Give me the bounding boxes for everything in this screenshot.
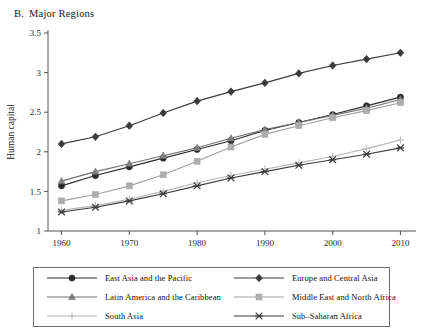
- marker-square: [59, 198, 65, 204]
- series-markers-3: [58, 96, 404, 184]
- x-tick-label: 2000: [324, 238, 343, 248]
- series-markers-2: [58, 49, 404, 148]
- y-tick-label: 3: [37, 68, 42, 78]
- chart-legend: East Asia and the PacificEurope and Cent…: [33, 267, 390, 327]
- legend-label: East Asia and the Pacific: [105, 273, 192, 283]
- legend-marker-circle-icon: [46, 272, 98, 284]
- legend-item[interactable]: Latin America and the Caribbean: [34, 287, 221, 306]
- series-4: [62, 103, 401, 201]
- marker-diamond: [126, 122, 133, 130]
- marker-diamond: [295, 70, 302, 78]
- legend-item[interactable]: Sub–Saharan Africa: [221, 307, 396, 326]
- panel-title: B.Major Regions: [14, 8, 94, 19]
- x-tick-label: 1980: [188, 238, 207, 248]
- legend-marker-plus-icon: [46, 310, 98, 322]
- x-tick-label: 1990: [256, 238, 275, 248]
- marker-square: [397, 100, 403, 106]
- x-tick-label: 1960: [53, 238, 72, 248]
- legend-marker-cross-icon: [233, 310, 285, 322]
- legend-item[interactable]: East Asia and the Pacific: [34, 268, 221, 287]
- y-axis-title: Human capital: [6, 104, 16, 160]
- y-tick-label: 3.5: [30, 28, 42, 38]
- legend-marker-diamond-icon: [233, 272, 285, 284]
- marker-square: [296, 123, 302, 129]
- legend-label: South Asia: [105, 311, 143, 321]
- y-tick-label: 2: [37, 147, 42, 157]
- marker-diamond: [363, 55, 370, 63]
- x-tick-label: 2010: [391, 238, 410, 248]
- marker-diamond: [329, 62, 336, 70]
- legend-label: Sub–Saharan Africa: [292, 311, 362, 321]
- chart-figure: B.Major Regions 11.522.533.5196019701980…: [0, 0, 423, 336]
- marker-diamond: [228, 88, 235, 96]
- marker-square: [126, 183, 132, 189]
- marker-diamond: [256, 274, 263, 282]
- y-tick-label: 1.5: [30, 187, 42, 197]
- line-chart-svg: 11.522.533.5196019701980199020002010Year…: [0, 22, 423, 254]
- marker-square: [194, 158, 200, 164]
- series-line: [62, 103, 401, 201]
- x-tick-label: 1970: [120, 238, 139, 248]
- legend-item[interactable]: South Asia: [34, 307, 221, 326]
- legend-marker-square-icon: [233, 291, 285, 303]
- legend-label: Europe and Central Asia: [292, 273, 378, 283]
- marker-square: [228, 144, 234, 150]
- legend-item[interactable]: Middle East and North Africa: [221, 287, 396, 306]
- marker-diamond: [261, 79, 268, 87]
- marker-diamond: [397, 49, 404, 57]
- panel-title-text: Major Regions: [29, 8, 94, 19]
- marker-diamond: [194, 97, 201, 105]
- marker-square: [92, 192, 98, 198]
- series-line: [62, 53, 401, 144]
- y-tick-label: 2.5: [30, 107, 42, 117]
- marker-square: [262, 131, 268, 137]
- legend-label: Latin America and the Caribbean: [105, 292, 221, 302]
- marker-diamond: [160, 109, 167, 117]
- marker-circle: [69, 275, 75, 281]
- marker-square: [160, 172, 166, 178]
- marker-square: [330, 115, 336, 121]
- legend-marker-triangle-icon: [46, 291, 98, 303]
- plot-area: 11.522.533.5196019701980199020002010Year…: [0, 22, 423, 254]
- series-2: [62, 53, 401, 144]
- legend-item[interactable]: Europe and Central Asia: [221, 268, 396, 287]
- y-tick-label: 1: [37, 226, 42, 236]
- panel-letter: B.: [14, 8, 24, 19]
- marker-diamond: [58, 140, 65, 148]
- marker-square: [256, 294, 262, 300]
- marker-square: [364, 108, 370, 114]
- legend-label: Middle East and North Africa: [292, 292, 396, 302]
- marker-diamond: [92, 133, 99, 141]
